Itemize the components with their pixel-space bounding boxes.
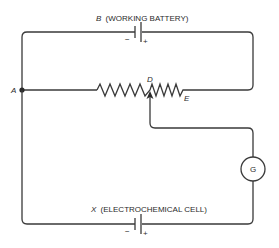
- slide-wire-resistor: [97, 84, 186, 96]
- galvanometer: G: [241, 157, 265, 181]
- working-battery-symbol: [135, 22, 141, 42]
- electrochemical-cell-symbol: [135, 214, 141, 234]
- electrochemical-cell-plus: +: [143, 229, 148, 238]
- bottom-loop-wire-left: [22, 90, 135, 224]
- top-loop-wire-left: [22, 32, 135, 90]
- working-battery-minus: −: [125, 35, 130, 44]
- electrochemical-cell-minus: −: [125, 227, 130, 236]
- sliding-contact-arrow: [147, 91, 254, 157]
- galvanometer-label: G: [250, 165, 256, 174]
- working-battery-label: B (WORKING BATTERY): [96, 14, 189, 23]
- electrochemical-cell-label: X (ELECTROCHEMICAL CELL): [90, 205, 207, 214]
- top-loop-wire-right: [142, 32, 253, 90]
- bottom-loop-wire-right: [142, 181, 253, 224]
- node-d-label: D: [147, 75, 153, 84]
- node-e-label: E: [184, 94, 190, 103]
- node-a-label: A: [10, 86, 16, 95]
- working-battery-plus: +: [143, 37, 148, 46]
- circuit-diagram: B (WORKING BATTERY) − + A D E G X (ELECT…: [0, 0, 279, 248]
